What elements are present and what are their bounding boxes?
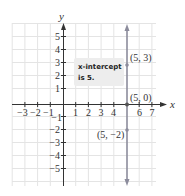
x-tick-2: 2 — [86, 107, 91, 118]
y-tick-5: 5 — [55, 31, 60, 42]
callout-line-2: is 5. — [78, 74, 95, 82]
coordinate-plane: x-intercept is 5. x y −3 −2 −1 1 — [0, 0, 185, 196]
x-tick-1: 1 — [73, 107, 78, 118]
y-tick-m5: −5 — [49, 163, 60, 174]
x-axis-arrow-icon — [160, 102, 167, 107]
x-tick-m2: −2 — [30, 107, 41, 118]
point-label-5-3: (5, 3) — [130, 52, 152, 64]
y-tick-m2: −2 — [49, 124, 60, 135]
y-tick-3: 3 — [55, 57, 60, 68]
y-axis — [61, 26, 66, 186]
y-tick-labels: 5 4 3 2 1 −1 −2 −3 −4 −5 — [49, 31, 62, 174]
y-tick-1: 1 — [55, 83, 60, 94]
x-tick-m3: −3 — [17, 107, 28, 118]
point-5-3 — [125, 63, 129, 67]
x-tick-7: 7 — [150, 107, 155, 118]
y-tick-4: 4 — [55, 44, 60, 55]
x-axis-label: x — [169, 98, 175, 110]
callout-box: x-intercept is 5. — [74, 58, 124, 86]
y-axis-arrow-icon — [61, 23, 66, 30]
y-tick-m1: −1 — [51, 112, 62, 123]
x-tick-3: 3 — [99, 107, 104, 118]
point-5-0 — [125, 103, 129, 107]
line-bottom-arrow-icon — [125, 179, 130, 186]
x-tick-4: 4 — [111, 107, 116, 118]
y-axis-label: y — [58, 10, 64, 22]
point-5-m2 — [125, 128, 129, 132]
point-label-5-0: (5, 0) — [130, 92, 152, 104]
callout-line-1: x-intercept — [78, 63, 122, 71]
y-tick-m3: −3 — [49, 137, 60, 148]
point-label-5-m2: (5, −2) — [97, 129, 124, 141]
y-tick-m4: −4 — [49, 150, 60, 161]
line-x-equals-5 — [125, 24, 130, 186]
line-top-arrow-icon — [125, 24, 130, 31]
y-tick-2: 2 — [55, 70, 60, 81]
x-tick-6: 6 — [137, 107, 142, 118]
